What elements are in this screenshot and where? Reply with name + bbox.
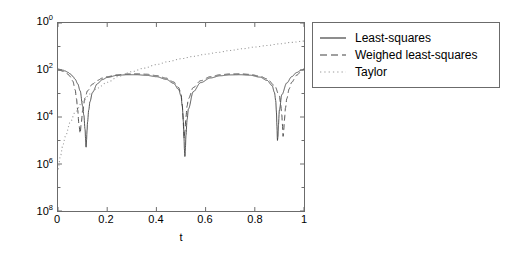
- legend-label-2: Taylor: [355, 66, 387, 78]
- y-tick-base-1: 10: [37, 63, 49, 75]
- figure-canvas: absolute error 100 102 104 106 108 0 0.2…: [0, 0, 526, 263]
- y-tick-exponent-1: 2: [49, 61, 53, 70]
- y-tick-label-2: 104: [37, 111, 53, 122]
- y-tick-exponent-3: 6: [49, 156, 53, 165]
- legend-label-1: Weighed least-squares: [355, 49, 478, 61]
- y-tick-exponent-4: 8: [49, 203, 53, 212]
- plot-area: [57, 22, 305, 212]
- y-axis-ticks: 100 102 104 106 108: [0, 0, 53, 263]
- x-tick-label-4: 0.8: [247, 214, 262, 225]
- legend-line-sample-dotted: [319, 66, 347, 78]
- y-tick-label-3: 106: [37, 159, 53, 170]
- x-tick-label-1: 0.2: [98, 214, 113, 225]
- x-tick-label-2: 0.4: [148, 214, 163, 225]
- axis-ticks-svg: [58, 23, 304, 211]
- legend-entry-weighed-least-squares: Weighed least-squares: [313, 46, 499, 63]
- y-tick-label-1: 102: [37, 64, 53, 75]
- x-tick-label-3: 0.6: [197, 214, 212, 225]
- y-tick-base-2: 10: [37, 110, 49, 122]
- y-tick-base-3: 10: [37, 158, 49, 170]
- legend-line-sample-dashed: [319, 49, 347, 61]
- y-tick-label-4: 108: [37, 206, 53, 217]
- x-axis-label: t: [179, 232, 182, 243]
- y-tick-label-0: 100: [37, 16, 53, 27]
- legend-label-0: Least-squares: [355, 32, 431, 44]
- y-tick-base-0: 10: [37, 15, 49, 27]
- legend-entry-taylor: Taylor: [313, 63, 499, 80]
- x-tick-label-0: 0: [54, 214, 60, 225]
- y-tick-exponent-2: 4: [49, 108, 53, 117]
- x-tick-label-5: 1: [301, 214, 307, 225]
- legend-entry-least-squares: Least-squares: [313, 29, 499, 46]
- y-tick-base-4: 10: [37, 205, 49, 217]
- y-tick-exponent-0: 0: [49, 13, 53, 22]
- legend-box: Least-squares Weighed least-squares Tayl…: [312, 22, 500, 88]
- legend-line-sample-solid: [319, 32, 347, 44]
